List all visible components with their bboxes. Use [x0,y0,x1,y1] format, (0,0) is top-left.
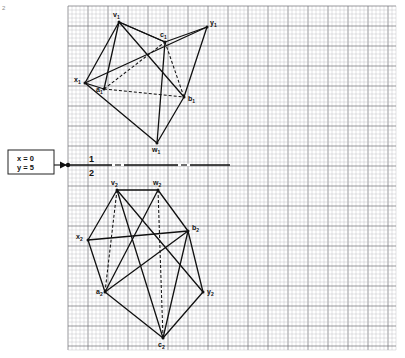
callout-line-2: y = 5 [17,163,34,172]
corner-mark: 2 [2,5,6,11]
diagram-canvas: 12 v1y1c1x1a1b1w1 v2w2b2x2a2y2c2 x = 0y … [0,0,405,358]
axis-label-bottom: 2 [89,168,94,178]
vertex-point-y2 [202,291,205,294]
vertex-point-y1 [206,26,209,29]
vertex-point-b1 [183,96,186,99]
vertex-point-v2 [116,189,119,192]
vertex-point-v1 [118,21,121,24]
vertex-point-a2 [104,291,107,294]
vertex-point-c2 [162,337,165,340]
vertex-point-x2 [87,239,90,242]
graph-paper-grid [68,6,396,350]
axis-label-top: 1 [89,154,94,164]
origin-point [66,163,70,167]
vertex-point-w2 [157,189,160,192]
vertex-point-c1 [164,41,167,44]
vertex-point-w1 [156,142,159,145]
orthographic-projection-drawing: 12 v1y1c1x1a1b1w1 v2w2b2x2a2y2c2 x = 0y … [0,0,405,358]
vertex-point-b2 [187,230,190,233]
vertex-point-a1 [103,88,106,91]
coordinate-callout: x = 0y = 5 [8,150,66,174]
callout-line-1: x = 0 [17,154,34,163]
vertex-point-x1 [84,82,87,85]
